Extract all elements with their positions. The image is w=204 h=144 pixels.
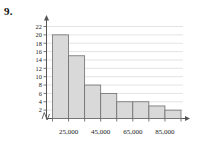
x-tick-label: 65,000 — [123, 128, 143, 136]
histogram-bar — [149, 106, 165, 119]
x-tick-label: 45,000 — [91, 128, 111, 136]
y-tick-label: 12 — [36, 65, 42, 72]
histogram-bar — [53, 35, 69, 119]
y-tick-label: 20 — [36, 31, 42, 38]
x-axis-arrow — [185, 116, 190, 121]
x-tick-label: 25,000 — [59, 128, 79, 136]
y-tick-label: 6 — [39, 90, 42, 97]
y-tick-label: 4 — [39, 98, 43, 105]
y-axis-arrow — [44, 15, 49, 20]
y-tick-label: 22 — [36, 23, 42, 30]
histogram-bar — [165, 110, 181, 118]
histogram-bar — [133, 102, 149, 119]
figure-panel: 9. 24681012141618202225,00045,00065,0008… — [0, 0, 204, 144]
x-tick-label: 85,000 — [155, 128, 175, 136]
histogram-bar — [69, 56, 85, 119]
y-tick-label: 2 — [39, 106, 42, 113]
histogram-bar — [85, 85, 101, 118]
chart-canvas: 24681012141618202225,00045,00065,00085,0… — [0, 0, 204, 144]
histogram-chart: 24681012141618202225,00045,00065,00085,0… — [0, 0, 204, 144]
y-tick-label: 14 — [36, 56, 43, 63]
y-tick-label: 8 — [39, 81, 42, 88]
y-tick-label: 10 — [36, 73, 42, 80]
histogram-bar — [101, 93, 117, 118]
y-tick-label: 18 — [36, 40, 42, 47]
histogram-bar — [117, 102, 133, 119]
y-tick-label: 16 — [36, 48, 42, 55]
